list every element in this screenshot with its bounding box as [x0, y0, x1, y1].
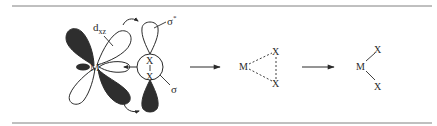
curved-arrow-bottom	[124, 104, 139, 112]
dxz-label: dxz	[93, 21, 107, 36]
d-lobe-small-left-filled	[76, 64, 90, 71]
stage2-x-bottom: X	[272, 78, 280, 89]
stage3-product: M X X	[356, 44, 382, 92]
stage2-x-top: X	[272, 46, 280, 57]
stage2-m-x-top-dashed	[249, 53, 272, 64]
stage1-x-top: X	[146, 55, 154, 66]
stage1-x-bottom: X	[146, 71, 154, 82]
d-lobe-lower-left-open	[69, 68, 95, 104]
stage3-metal-label: M	[356, 61, 365, 72]
stage3-x-bottom: X	[374, 81, 382, 92]
stage3-m-x-bottom-bond	[366, 71, 375, 80]
stage2-m-x-bottom-dashed	[249, 69, 272, 81]
d-lobe-lower-right-filled	[98, 69, 130, 104]
sigma-star-label: σ*	[167, 14, 177, 27]
mechanism-svg: M dxz X X σ* σ M X X	[0, 0, 437, 126]
sigma-leader	[160, 75, 170, 85]
stage2-transition-state: M X X	[239, 46, 280, 89]
sigma-star-lobe-bottom	[142, 80, 158, 112]
diagram-canvas: M dxz X X σ* σ M X X	[0, 0, 437, 126]
sigma-label: σ	[171, 83, 177, 95]
stage3-m-x-top-bond	[366, 53, 375, 61]
stage1-orbital-diagram: M dxz X X σ* σ	[66, 14, 177, 112]
stage2-metal-label: M	[239, 61, 248, 72]
stage1-metal-label: M	[90, 61, 100, 73]
curved-arrow-top	[123, 19, 138, 25]
